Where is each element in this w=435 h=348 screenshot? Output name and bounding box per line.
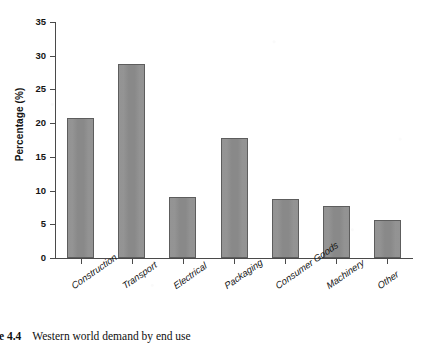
bar [221, 138, 248, 258]
y-axis-tick: 35 [50, 22, 55, 23]
bar [118, 64, 145, 258]
x-axis-tick [234, 259, 235, 264]
x-axis-label: Packaging [222, 257, 265, 291]
y-axis-tick-label: 15 [35, 151, 46, 162]
x-axis-tick [285, 259, 286, 264]
figure-caption-number: re 4.4 [0, 330, 21, 342]
figure-caption: re 4.4Western world demand by end use [0, 330, 435, 342]
x-axis-tick [132, 259, 133, 264]
bar [169, 197, 196, 258]
y-axis-tick: 5 [50, 224, 55, 225]
bar [67, 118, 94, 258]
y-axis-tick: 0 [50, 258, 55, 259]
x-axis-tick [336, 259, 337, 264]
y-axis-tick-label: 25 [35, 83, 46, 94]
figure-container: Percentage (%) 05101520253035 Constructi… [0, 0, 435, 348]
plot-area: 05101520253035 ConstructionTransportElec… [55, 18, 413, 258]
y-axis-tick: 30 [50, 56, 55, 57]
y-axis-title: Percentage (%) [14, 75, 25, 175]
y-axis-tick-label: 0 [41, 252, 46, 263]
x-axis-tick [81, 259, 82, 264]
bar [272, 199, 299, 258]
y-axis-tick: 15 [50, 157, 55, 158]
x-axis-label: Machinery [324, 257, 366, 291]
y-axis-tick: 25 [50, 89, 55, 90]
x-axis-label: Transport [120, 259, 159, 291]
bar [374, 220, 401, 258]
y-axis-line [55, 22, 56, 259]
y-axis-tick-label: 20 [35, 117, 46, 128]
y-axis-tick-label: 30 [35, 50, 46, 61]
y-axis-tick: 20 [50, 123, 55, 124]
y-axis-tick-label: 35 [35, 16, 46, 27]
y-axis-tick-label: 5 [41, 218, 46, 229]
y-axis-tick-label: 10 [35, 185, 46, 196]
figure-caption-text: Western world demand by end use [32, 330, 190, 342]
x-axis-tick [183, 259, 184, 264]
x-axis-label: Other [375, 268, 401, 291]
x-axis-tick [387, 259, 388, 264]
y-axis-tick: 10 [50, 191, 55, 192]
x-axis-label: Electrical [171, 260, 209, 291]
